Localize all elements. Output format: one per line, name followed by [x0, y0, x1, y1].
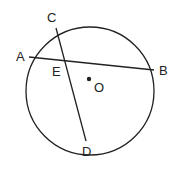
- chord-ab: [29, 57, 154, 70]
- center-dot: [87, 77, 91, 81]
- geometry-diagram: C A E O B D: [0, 0, 174, 170]
- label-e: E: [52, 64, 61, 79]
- circle-o: [26, 27, 154, 155]
- chord-cd: [56, 28, 86, 141]
- label-b: B: [159, 63, 168, 78]
- label-a: A: [16, 49, 25, 64]
- label-o: O: [94, 80, 104, 95]
- label-c: C: [47, 10, 56, 25]
- label-d: D: [82, 144, 91, 159]
